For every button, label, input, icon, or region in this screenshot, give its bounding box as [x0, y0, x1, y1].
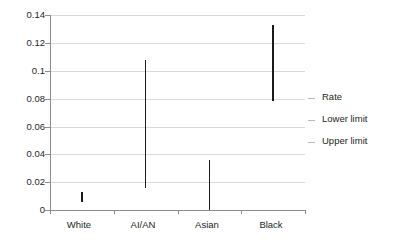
x-tick-label-asian: Asian	[172, 219, 242, 230]
y-tick-mark-0.10	[45, 71, 50, 72]
gridline-0.06	[50, 127, 305, 128]
legend: Rate Lower limit Upper limit	[305, 88, 394, 154]
y-axis-line	[50, 15, 51, 211]
y-tick-label-0.12: 0.12	[5, 38, 45, 48]
y-tick-label-0: 0	[5, 205, 45, 215]
plot-area	[50, 15, 305, 210]
y-tick-mark-0.08	[45, 99, 50, 100]
legend-label-lower-limit: Lower limit	[322, 113, 367, 124]
error-bar-asian	[209, 160, 210, 210]
y-tick-mark-0.12	[45, 43, 50, 44]
y-tick-label-0.08: 0.08	[5, 94, 45, 104]
x-tick-mark-1	[114, 210, 115, 214]
y-tick-label-0.10: 0.1	[5, 66, 45, 76]
legend-item-upper-limit: Upper limit	[305, 132, 394, 154]
y-tick-label-0.02: 0.02	[5, 177, 45, 187]
legend-label-upper-limit: Upper limit	[322, 135, 367, 146]
gridline-0.14	[50, 15, 305, 16]
legend-marker-rate-icon	[308, 98, 315, 99]
y-tick-mark-0.02	[45, 182, 50, 183]
legend-marker-upper-limit-icon	[308, 142, 315, 143]
y-tick-mark-0.06	[45, 127, 50, 128]
x-tick-label-black: Black	[236, 219, 306, 230]
y-tick-label-0.06: 0.06	[5, 122, 45, 132]
gridline-0.04	[50, 154, 305, 155]
legend-marker-lower-limit-icon	[308, 120, 315, 121]
gridline-0.10	[50, 71, 305, 72]
error-bar-black	[272, 25, 273, 102]
x-tick-label-white: White	[44, 219, 114, 230]
gridline-0.08	[50, 99, 305, 100]
legend-label-rate: Rate	[322, 91, 342, 102]
gridline-0.02	[50, 182, 305, 183]
x-tick-label-aian: AI/AN	[108, 219, 178, 230]
x-tick-mark-3	[241, 210, 242, 214]
error-bar-chart: 0.14 0.12 0.1 0.08 0.06 0.04 0.02 0 Whit…	[0, 0, 394, 243]
y-tick-mark-0.14	[45, 15, 50, 16]
error-bar-white	[81, 192, 82, 202]
legend-item-rate: Rate	[305, 88, 394, 110]
gridline-0.12	[50, 43, 305, 44]
y-tick-mark-0.04	[45, 154, 50, 155]
x-tick-mark-start	[50, 210, 51, 214]
x-tick-mark-end	[305, 210, 306, 214]
y-tick-label-0.14: 0.14	[5, 10, 45, 20]
x-tick-mark-2	[178, 210, 179, 214]
y-tick-label-0.04: 0.04	[5, 149, 45, 159]
error-bar-aian	[145, 60, 146, 188]
legend-item-lower-limit: Lower limit	[305, 110, 394, 132]
